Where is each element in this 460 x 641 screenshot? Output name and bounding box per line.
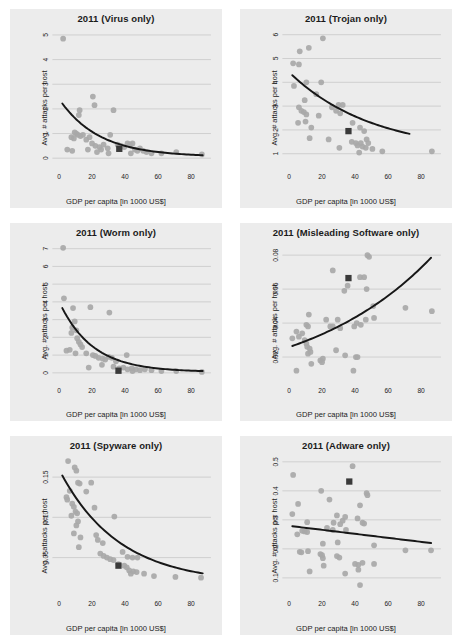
y-axis-label: Avg. # attacks per host [270, 498, 279, 573]
svg-text:0: 0 [57, 173, 61, 180]
figure-grid: 2011 (Virus only) 012345020406080 Avg. #… [0, 0, 460, 641]
svg-text:60: 60 [384, 600, 392, 607]
svg-text:20: 20 [318, 600, 326, 607]
x-axis-label: GDP per capita [in 1000 US$] [10, 410, 222, 419]
svg-text:60: 60 [384, 387, 392, 394]
svg-text:4: 4 [42, 57, 49, 61]
svg-text:40: 40 [351, 600, 359, 607]
svg-text:0: 0 [42, 156, 49, 160]
svg-text:40: 40 [121, 173, 129, 180]
svg-text:0: 0 [287, 600, 291, 607]
svg-text:0: 0 [57, 387, 61, 394]
chart-panel: 2011 (Misleading Software only) 0.020.04… [240, 223, 452, 422]
chart-panel: 2011 (Spyware only) 0.050.100.1502040608… [10, 436, 222, 635]
svg-text:0: 0 [287, 173, 291, 180]
svg-text:80: 80 [187, 387, 195, 394]
svg-text:40: 40 [351, 173, 359, 180]
y-axis-label: Avg. # attacks per host [40, 71, 49, 146]
svg-text:6: 6 [42, 264, 49, 268]
svg-text:40: 40 [351, 387, 359, 394]
svg-text:0.4: 0.4 [272, 486, 279, 496]
x-axis-label: GDP per capita [in 1000 US$] [240, 410, 452, 419]
svg-text:0.15: 0.15 [42, 471, 49, 484]
svg-text:80: 80 [187, 600, 195, 607]
svg-text:60: 60 [154, 600, 162, 607]
svg-text:80: 80 [417, 173, 425, 180]
svg-text:60: 60 [154, 387, 162, 394]
chart-panel: 2011 (Virus only) 012345020406080 Avg. #… [10, 9, 222, 208]
svg-text:20: 20 [318, 173, 326, 180]
svg-text:0.08: 0.08 [272, 248, 279, 261]
svg-text:0.5: 0.5 [272, 457, 279, 467]
y-axis-label: Avg. # attacks per host [40, 284, 49, 359]
svg-text:20: 20 [88, 387, 96, 394]
svg-text:5: 5 [272, 56, 279, 60]
y-axis-label: Avg. # attacks per host [270, 284, 279, 359]
svg-text:60: 60 [154, 173, 162, 180]
y-axis-label: Avg. # attacks per host [270, 71, 279, 146]
svg-text:80: 80 [417, 600, 425, 607]
svg-text:80: 80 [187, 173, 195, 180]
svg-text:6: 6 [272, 33, 279, 37]
y-axis-label: Avg. # attacks per host [40, 498, 49, 573]
chart-panel: 2011 (Adware only) 0.10.20.30.40.5020406… [240, 436, 452, 635]
svg-text:1: 1 [272, 152, 279, 156]
svg-text:20: 20 [318, 387, 326, 394]
svg-text:0: 0 [287, 387, 291, 394]
x-axis-label: GDP per capita [in 1000 US$] [10, 624, 222, 633]
svg-text:80: 80 [417, 387, 425, 394]
svg-text:20: 20 [88, 600, 96, 607]
svg-text:20: 20 [88, 173, 96, 180]
x-axis-label: GDP per capita [in 1000 US$] [10, 197, 222, 206]
svg-text:0: 0 [57, 600, 61, 607]
chart-panel: 2011 (Worm only) 01234567020406080 Avg. … [10, 223, 222, 422]
svg-text:7: 7 [42, 246, 49, 250]
svg-text:0.1: 0.1 [272, 573, 279, 583]
chart-panel: 2011 (Trojan only) 123456020406080 Avg. … [240, 9, 452, 208]
x-axis-label: GDP per capita [in 1000 US$] [240, 197, 452, 206]
x-axis-label: GDP per capita [in 1000 US$] [240, 624, 452, 633]
svg-text:40: 40 [121, 600, 129, 607]
svg-text:0: 0 [42, 370, 49, 374]
svg-text:40: 40 [121, 387, 129, 394]
svg-text:60: 60 [384, 173, 392, 180]
svg-text:5: 5 [42, 33, 49, 37]
